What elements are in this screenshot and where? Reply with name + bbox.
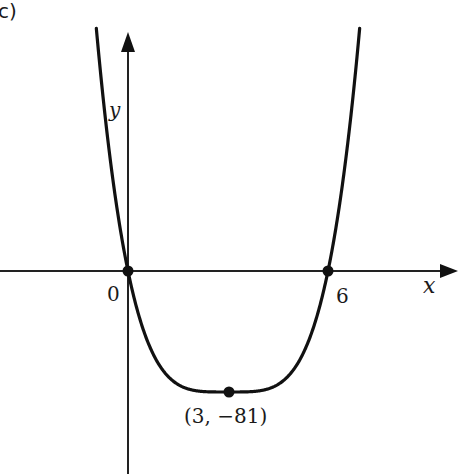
x-intercept-label: 6: [336, 284, 349, 308]
graph: c) y x 0 6 (3, −81): [0, 0, 460, 474]
x-axis-arrow-icon: [440, 264, 458, 278]
quartic-curve: [96, 28, 359, 392]
y-axis-arrow-icon: [121, 32, 135, 52]
minimum-label: (3, −81): [184, 404, 267, 428]
minimum-point: [224, 387, 235, 398]
x-intercept-point: [323, 266, 334, 277]
part-label: c): [0, 0, 17, 23]
y-axis-label: y: [108, 98, 121, 122]
origin-label: 0: [107, 282, 120, 306]
origin-point: [123, 266, 134, 277]
x-axis-label: x: [423, 273, 436, 298]
